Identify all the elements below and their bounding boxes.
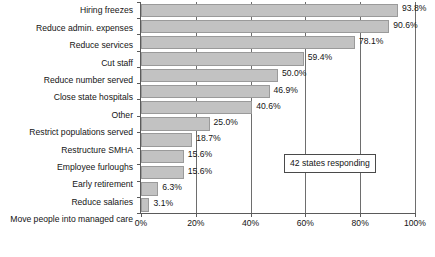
bar-value-label: 18.7% — [196, 134, 220, 143]
bar — [141, 101, 252, 114]
category-label: Reduce services — [0, 37, 137, 54]
category-axis-labels: Hiring freezes Reduce admin. expenses Re… — [0, 2, 137, 228]
y-axis-tick — [137, 51, 141, 52]
category-label: Reduce admin. expenses — [0, 19, 137, 36]
x-gridline — [415, 2, 416, 213]
bar — [141, 133, 192, 146]
category-label: Reduce salaries — [0, 193, 137, 210]
bar-value-label: 3.1% — [153, 199, 173, 208]
x-axis-tick-label: 40% — [242, 219, 259, 228]
y-axis-tick — [137, 99, 141, 100]
bar-row: 90.6% — [141, 18, 415, 35]
annotation-box: 42 states responding — [284, 154, 376, 173]
bar — [141, 166, 184, 179]
category-label: Close state hospitals — [0, 89, 137, 106]
category-label: Hiring freezes — [0, 2, 137, 19]
bar — [141, 36, 355, 49]
y-axis-tick — [137, 116, 141, 117]
category-label: Employee furloughs — [0, 159, 137, 176]
bar-row: 78.1% — [141, 34, 415, 51]
category-label: Restrict populations served — [0, 124, 137, 141]
bar-value-label: 93.8% — [402, 4, 426, 13]
category-label: Other — [0, 106, 137, 123]
category-label: Cut staff — [0, 54, 137, 71]
bar-value-label: 46.9% — [274, 86, 298, 95]
bar-row: 18.7% — [141, 132, 415, 149]
y-axis-tick — [137, 148, 141, 149]
bar-value-label: 59.4% — [308, 53, 332, 62]
bar — [141, 20, 389, 33]
bar — [141, 182, 158, 195]
bar-row: 50.0% — [141, 67, 415, 84]
bar — [141, 117, 210, 130]
category-label: Move people into managed care — [0, 211, 137, 228]
bar-value-label: 50.0% — [282, 69, 306, 78]
bar-value-label: 15.6% — [188, 150, 212, 159]
bar — [141, 52, 304, 65]
x-axis-tick-label: 20% — [187, 219, 204, 228]
category-label: Early retirement — [0, 176, 137, 193]
bar-row: 6.3% — [141, 181, 415, 198]
bar — [141, 198, 149, 211]
bar — [141, 150, 184, 163]
annotation-text: 42 states responding — [290, 159, 370, 168]
bar-row: 46.9% — [141, 83, 415, 100]
plot-area: 93.8%90.6%78.1%59.4%50.0%46.9%40.6%25.0%… — [141, 2, 415, 213]
category-label: Restructure SMHA — [0, 141, 137, 158]
bar-value-label: 78.1% — [359, 37, 383, 46]
y-axis-tick — [137, 164, 141, 165]
y-axis-tick — [137, 34, 141, 35]
y-axis-tick — [137, 67, 141, 68]
x-axis-tick-label: 60% — [297, 219, 314, 228]
y-axis-tick — [137, 213, 141, 214]
y-axis-tick — [137, 181, 141, 182]
bar — [141, 69, 278, 82]
y-axis-tick — [137, 197, 141, 198]
bar-value-label: 40.6% — [256, 102, 280, 111]
x-axis-tick-label: 0% — [135, 219, 147, 228]
y-axis-tick — [137, 18, 141, 19]
x-axis-tick-label: 100% — [404, 219, 426, 228]
bar — [141, 4, 398, 17]
bar-row: 93.8% — [141, 2, 415, 19]
x-axis-tick-labels: 0%20%40%60%80%100% — [141, 219, 417, 233]
bar-value-label: 15.6% — [188, 167, 212, 176]
bar-value-label: 6.3% — [162, 183, 182, 192]
bar-row: 25.0% — [141, 116, 415, 133]
bar — [141, 85, 270, 98]
category-label: Reduce number served — [0, 72, 137, 89]
y-axis-tick — [137, 132, 141, 133]
x-axis-tick-label: 80% — [352, 219, 369, 228]
bar-value-label: 25.0% — [214, 118, 238, 127]
bar-row: 3.1% — [141, 197, 415, 214]
bar-chart: Hiring freezes Reduce admin. expenses Re… — [0, 0, 435, 257]
y-axis-tick — [137, 83, 141, 84]
x-axis-tick — [415, 213, 416, 217]
y-axis-tick — [137, 2, 141, 3]
bar-value-label: 90.6% — [393, 21, 417, 30]
bar-row: 40.6% — [141, 99, 415, 116]
bar-row: 59.4% — [141, 51, 415, 68]
